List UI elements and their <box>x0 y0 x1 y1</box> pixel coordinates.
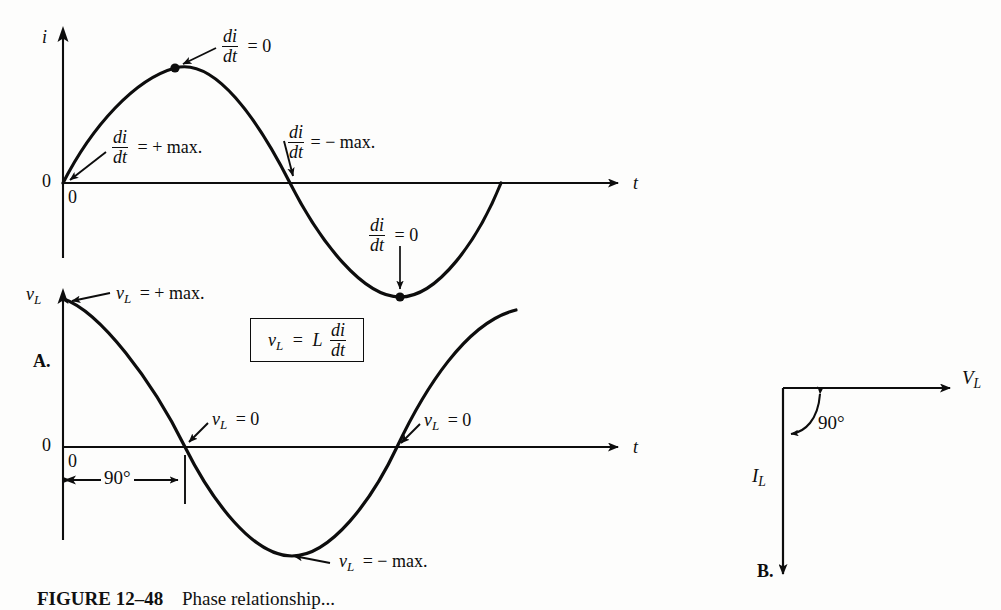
current-trough-marker-dot <box>395 292 404 301</box>
fraction-di-dt: di dt <box>369 216 385 254</box>
voltage-origin-y-label: 0 <box>42 436 51 454</box>
equation-content: vL = L di dt <box>268 321 346 359</box>
annotation-di-dt-peak-rest: = 0 <box>248 36 272 56</box>
current-phasor-label: IL <box>752 466 766 489</box>
panel-a-letter: A. <box>33 352 51 370</box>
annotation-di-dt-minus-max: di dt = − max. <box>288 123 375 161</box>
phasor-angle-arc <box>791 394 820 434</box>
current-peak-marker-dot <box>170 63 179 72</box>
phase-marker-label: 90° <box>101 468 134 487</box>
leader-di-dt-peak <box>183 48 216 64</box>
fraction-di-dt: di dt <box>222 27 238 65</box>
fraction-di-dt: di dt <box>112 128 128 166</box>
leader-vl-plus-max <box>72 293 110 301</box>
figure-caption-text: Phase relationship... <box>182 588 335 609</box>
equation-coefficient: L <box>312 330 322 350</box>
annotation-vl-plus-max: vL = + max. <box>116 284 205 306</box>
annotation-vl-zero-1: vL = 0 <box>212 410 259 432</box>
annotation-vl-zero-1-rest: = 0 <box>236 409 260 429</box>
leader-vl-zero-1 <box>189 423 208 442</box>
voltage-y-axis-label: vL <box>26 285 41 307</box>
annotation-di-dt-peak: di dt = 0 <box>222 27 271 65</box>
fraction-di-dt: di dt <box>288 123 304 161</box>
voltage-x-axis-label: t <box>633 438 638 456</box>
equation-box: vL = L di dt <box>250 318 364 362</box>
voltage-phasor-label: VL <box>962 368 981 391</box>
figure-caption: FIGURE 12–48 Phase relationship... <box>37 588 335 610</box>
current-y-axis-label: i <box>42 28 47 46</box>
phasor-diagram <box>783 388 950 574</box>
annotation-vl-minus-max: vL = − max. <box>339 552 428 574</box>
panel-b-letter: B. <box>757 562 774 580</box>
figure-caption-label: FIGURE 12–48 <box>37 588 163 609</box>
phasor-angle-label: 90° <box>818 413 845 432</box>
annotation-vl-minus-max-rest: = − max. <box>363 551 428 571</box>
annotation-di-dt-minus-max-rest: = − max. <box>311 132 376 152</box>
leader-vl-minus-max <box>294 556 330 563</box>
annotation-di-dt-trough: di dt = 0 <box>369 216 418 254</box>
current-x-axis-label: t <box>633 174 638 192</box>
voltage-origin-x-label: 0 <box>68 452 77 470</box>
current-origin-x-label: 0 <box>68 188 77 206</box>
annotation-di-dt-plus-max: di dt = + max. <box>112 128 202 166</box>
annotation-di-dt-plus-max-rest: = + max. <box>138 137 203 157</box>
annotation-vl-zero-2-rest: = 0 <box>448 410 472 430</box>
leader-di-dt-plus-max <box>70 152 106 180</box>
equation-equals: = <box>293 330 303 350</box>
annotation-vl-plus-max-rest: = + max. <box>140 283 205 303</box>
fraction-di-dt: di dt <box>330 321 346 359</box>
current-sine-curve <box>63 67 501 297</box>
annotation-vl-zero-2: vL = 0 <box>424 411 471 433</box>
current-origin-y-label: 0 <box>42 172 51 190</box>
annotation-di-dt-trough-rest: = 0 <box>395 225 419 245</box>
